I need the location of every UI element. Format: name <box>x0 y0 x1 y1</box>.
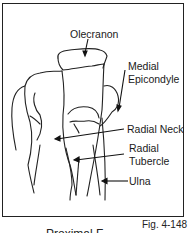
label-olecranon: Olecranon <box>70 28 118 40</box>
label-radial-tubercle-line1: Radial <box>129 142 159 154</box>
label-radial-neck: Radial Neck <box>127 123 184 135</box>
label-ulna: Ulna <box>129 175 151 187</box>
label-medial-epicondyle-line2: Epicondyle <box>128 73 179 85</box>
label-radial-tubercle-line2: Tubercle <box>129 155 169 167</box>
label-medial-epicondyle-line1: Medial <box>128 60 159 72</box>
figure-caption: Proximal F <box>46 227 103 233</box>
figure-number: Fig. 4-148 <box>142 219 187 230</box>
